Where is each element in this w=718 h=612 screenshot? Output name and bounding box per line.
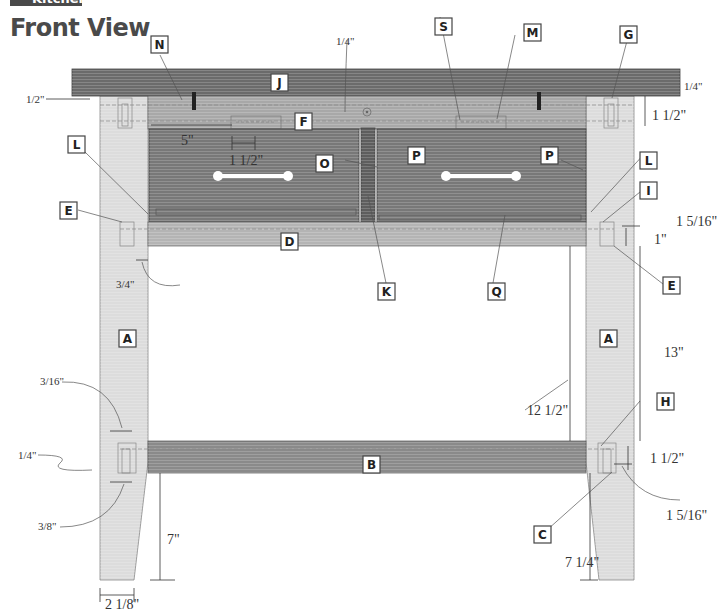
callout-l-right: L <box>640 152 657 169</box>
callout-s: S <box>435 18 452 35</box>
svg-text:3/16": 3/16" <box>40 375 64 387</box>
svg-text:1/2": 1/2" <box>26 93 45 105</box>
callout-d: D <box>281 233 298 250</box>
callout-e-right: E <box>663 277 680 294</box>
svg-text:1 1/2": 1 1/2" <box>229 153 263 168</box>
svg-text:H: H <box>660 395 670 409</box>
callout-p-right: P <box>541 147 558 164</box>
callout-l-left: L <box>68 136 85 153</box>
svg-text:C: C <box>538 528 547 542</box>
svg-text:N: N <box>154 38 164 52</box>
svg-text:3/4": 3/4" <box>116 278 135 290</box>
callout-m: M <box>524 24 541 41</box>
svg-text:1 5/16": 1 5/16" <box>666 508 707 523</box>
svg-text:L: L <box>73 138 81 152</box>
callout-a-right: A <box>600 330 617 347</box>
svg-text:7 1/4": 7 1/4" <box>565 555 599 570</box>
svg-text:5": 5" <box>181 133 194 148</box>
svg-text:E: E <box>64 204 72 218</box>
svg-text:E: E <box>667 279 675 293</box>
svg-text:A: A <box>123 332 133 346</box>
callout-k: K <box>378 283 395 300</box>
callout-f: F <box>295 113 312 130</box>
svg-text:G: G <box>624 28 634 42</box>
tabletop <box>72 69 680 96</box>
callout-a-left: A <box>119 330 136 347</box>
callout-q: Q <box>488 283 505 300</box>
svg-text:I: I <box>646 184 650 198</box>
front-rail <box>120 222 614 246</box>
svg-text:D: D <box>285 235 295 249</box>
svg-text:1 1/2": 1 1/2" <box>650 451 684 466</box>
svg-text:O: O <box>319 157 329 171</box>
svg-text:2 1/8": 2 1/8" <box>105 597 139 612</box>
callout-c: C <box>534 526 551 543</box>
svg-text:3/8": 3/8" <box>38 520 57 532</box>
svg-text:Q: Q <box>491 285 501 299</box>
svg-text:1 5/16": 1 5/16" <box>676 214 717 229</box>
svg-text:J: J <box>276 76 281 90</box>
callout-j: J <box>271 74 288 91</box>
svg-text:1": 1" <box>654 232 667 247</box>
svg-text:F: F <box>299 115 307 129</box>
svg-text:S: S <box>439 20 448 34</box>
callout-e-left: E <box>60 202 77 219</box>
callout-n: N <box>151 36 168 53</box>
svg-text:L: L <box>645 154 653 168</box>
svg-text:1 1/2": 1 1/2" <box>652 108 686 123</box>
svg-text:7": 7" <box>167 532 180 547</box>
svg-text:M: M <box>527 26 539 40</box>
callout-h: H <box>657 393 674 410</box>
callout-b: B <box>363 456 380 473</box>
apron <box>100 96 634 129</box>
svg-text:1/4": 1/4" <box>336 35 355 47</box>
front-view-diagram: N J S M G F L O P P L I E D K Q E A A H … <box>0 0 718 612</box>
svg-text:13": 13" <box>664 345 684 360</box>
svg-text:12 1/2": 12 1/2" <box>527 403 568 418</box>
svg-text:K: K <box>382 285 392 299</box>
svg-text:1/4": 1/4" <box>684 80 703 92</box>
svg-text:P: P <box>545 149 554 163</box>
svg-text:B: B <box>367 458 376 472</box>
callout-p-left: P <box>408 147 425 164</box>
callout-i: I <box>640 182 657 199</box>
callout-o: O <box>316 155 333 172</box>
svg-text:A: A <box>604 332 614 346</box>
svg-text:1/4": 1/4" <box>18 449 37 461</box>
drawer-right <box>377 129 586 222</box>
svg-text:P: P <box>412 149 421 163</box>
divider <box>361 128 375 222</box>
callout-g: G <box>620 26 637 43</box>
